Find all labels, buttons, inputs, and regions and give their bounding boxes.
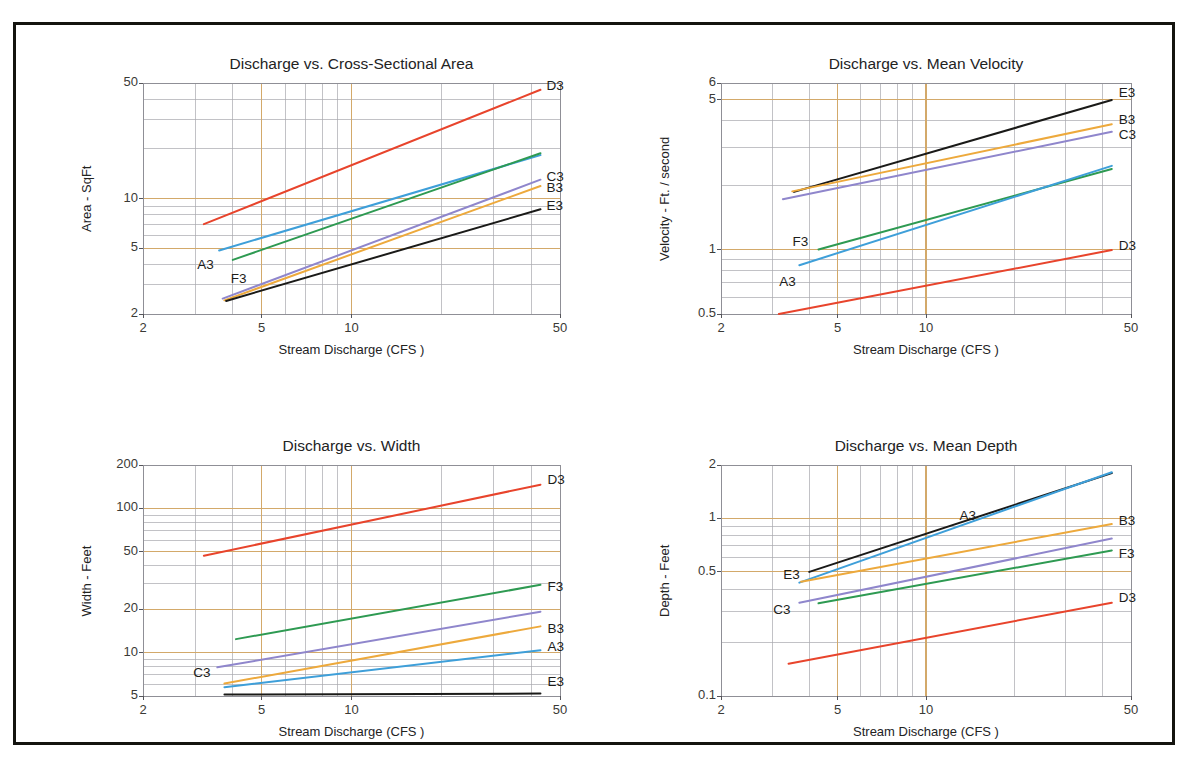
x-axis-label: Stream Discharge (CFS ) xyxy=(721,342,1131,357)
series-label-b3: B3 xyxy=(546,180,563,195)
y-axis-tick-label: 0.5 xyxy=(672,563,716,578)
series-label-d3: D3 xyxy=(547,472,564,487)
series-label-d3: D3 xyxy=(546,78,563,93)
y-axis-label: Depth - Feet xyxy=(657,544,672,616)
series-label-a3: A3 xyxy=(547,639,564,654)
series-label-e3: E3 xyxy=(547,674,564,689)
series-label-b3: B3 xyxy=(1119,513,1136,528)
series-label-c3: C3 xyxy=(773,602,790,617)
series-label-d3: D3 xyxy=(1119,590,1136,605)
series-label-c3: C3 xyxy=(1119,127,1136,142)
x-axis-tick-label: 2 xyxy=(701,320,741,335)
x-axis-tick-label: 50 xyxy=(1111,320,1151,335)
chart-panel-velocity: Discharge vs. Mean VelocityE3B3C3F3A3D36… xyxy=(656,43,1191,384)
series-label-c3: C3 xyxy=(193,665,210,680)
y-axis-tick-label: 1 xyxy=(672,241,716,256)
x-axis-label: Stream Discharge (CFS ) xyxy=(143,342,560,357)
x-axis-tick-label: 10 xyxy=(906,320,946,335)
series-label-f3: F3 xyxy=(793,234,809,249)
x-axis-tick-label: 5 xyxy=(242,320,282,335)
y-axis-tick-label: 2 xyxy=(672,456,716,471)
chart-panel-depth: Discharge vs. Mean DepthE3A3B3C3F3D3210.… xyxy=(656,425,1191,765)
series-label-a3: A3 xyxy=(779,274,796,289)
series-label-e3: E3 xyxy=(1119,85,1136,100)
series-label-e3: E3 xyxy=(783,567,800,582)
x-axis-tick-label: 5 xyxy=(242,702,282,717)
y-axis-tick-label: 0.1 xyxy=(672,687,716,702)
chart-panel-area: Discharge vs. Cross-Sectional AreaA3F3D3… xyxy=(73,43,640,384)
y-axis-tick-label: 100 xyxy=(94,499,138,514)
x-axis-tick-label: 5 xyxy=(818,320,858,335)
y-axis-tick-label: 0.5 xyxy=(672,305,716,320)
y-axis-tick-label: 200 xyxy=(94,456,138,471)
x-axis-tick-label: 10 xyxy=(332,320,372,335)
chart-panel-width: Discharge vs. WidthD3F3C3B3A3E3200100502… xyxy=(73,425,640,765)
x-axis-label: Stream Discharge (CFS ) xyxy=(143,724,560,739)
series-label-f3: F3 xyxy=(547,579,563,594)
x-axis-tick-label: 10 xyxy=(332,702,372,717)
series-label-b3: B3 xyxy=(1119,112,1136,127)
figure-frame: Discharge vs. Cross-Sectional AreaA3F3D3… xyxy=(13,22,1175,745)
x-axis-tick-label: 50 xyxy=(1111,702,1151,717)
series-label-b3: B3 xyxy=(547,621,564,636)
x-axis-tick-label: 2 xyxy=(701,702,741,717)
series-label-d3: D3 xyxy=(1119,238,1136,253)
series-label-f3: F3 xyxy=(1119,546,1135,561)
y-axis-tick-label: 6 xyxy=(672,74,716,89)
series-label-f3: F3 xyxy=(231,271,247,286)
y-axis-tick-label: 5 xyxy=(94,239,138,254)
y-axis-tick-label: 50 xyxy=(94,543,138,558)
y-axis-tick-label: 10 xyxy=(94,190,138,205)
x-axis-tick-label: 50 xyxy=(540,320,580,335)
y-axis-tick-label: 20 xyxy=(94,600,138,615)
y-axis-label: Area - SqFt xyxy=(79,165,94,231)
y-axis-tick-label: 5 xyxy=(672,91,716,106)
x-axis-label: Stream Discharge (CFS ) xyxy=(721,724,1131,739)
series-label-a3: A3 xyxy=(197,257,214,272)
x-axis-tick-label: 5 xyxy=(818,702,858,717)
series-label-e3: E3 xyxy=(546,198,563,213)
y-axis-tick-label: 1 xyxy=(672,509,716,524)
y-axis-label: Width - Feet xyxy=(79,545,94,616)
x-axis-tick-label: 2 xyxy=(123,320,163,335)
y-axis-tick-label: 2 xyxy=(94,305,138,320)
series-label-a3: A3 xyxy=(960,508,977,523)
y-axis-tick-label: 5 xyxy=(94,687,138,702)
x-axis-tick-label: 2 xyxy=(123,702,163,717)
y-axis-tick-label: 50 xyxy=(94,74,138,89)
x-axis-tick-label: 10 xyxy=(906,702,946,717)
x-axis-tick-label: 50 xyxy=(540,702,580,717)
y-axis-tick-label: 10 xyxy=(94,644,138,659)
series-line-e3 xyxy=(224,694,540,695)
y-axis-label: Velocity - Ft. / second xyxy=(657,136,672,260)
